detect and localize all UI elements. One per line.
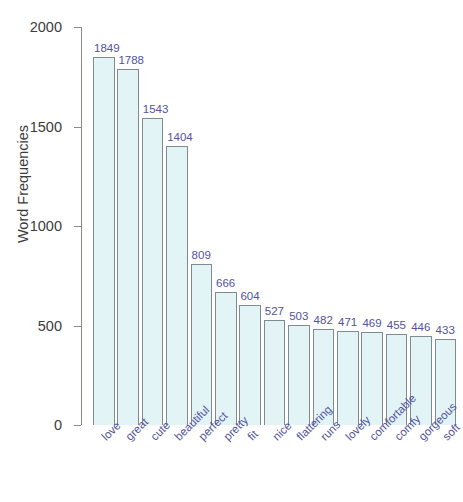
- bar-value-label: 482: [314, 315, 333, 327]
- bar[interactable]: [93, 57, 115, 425]
- bar[interactable]: [264, 320, 286, 425]
- bar-value-label: 503: [289, 311, 308, 323]
- x-axis-label[interactable]: soft: [441, 422, 462, 443]
- bar-value-label: 1849: [94, 43, 120, 55]
- bar[interactable]: [191, 264, 213, 425]
- bar-chart: 0500100015002000 Word Frequencies 184917…: [0, 0, 463, 502]
- plot-area: 1849178815431404809666604527503482471469…: [0, 0, 463, 502]
- bar-value-label: 433: [436, 325, 455, 337]
- bar-value-label: 446: [411, 322, 430, 334]
- bar[interactable]: [288, 325, 310, 425]
- bar-value-label: 666: [216, 278, 235, 290]
- bar[interactable]: [166, 146, 188, 425]
- bar-value-label: 1404: [167, 132, 193, 144]
- bar-value-label: 469: [362, 318, 381, 330]
- bar-value-label: 604: [240, 291, 259, 303]
- bar-value-label: 471: [338, 317, 357, 329]
- bar[interactable]: [361, 332, 383, 425]
- bar[interactable]: [142, 118, 164, 425]
- x-axis-label[interactable]: fit: [246, 429, 260, 443]
- bar-value-label: 455: [387, 320, 406, 332]
- bar[interactable]: [337, 331, 359, 425]
- bar-value-label: 809: [192, 250, 211, 262]
- bar-value-label: 527: [265, 306, 284, 318]
- bar[interactable]: [239, 305, 261, 425]
- bar[interactable]: [117, 69, 139, 425]
- bar[interactable]: [215, 292, 237, 425]
- bar-value-label: 1788: [118, 55, 144, 67]
- bar-value-label: 1543: [143, 104, 169, 116]
